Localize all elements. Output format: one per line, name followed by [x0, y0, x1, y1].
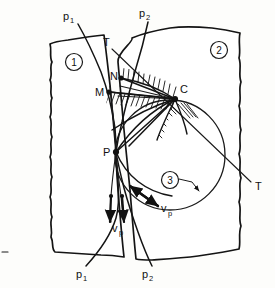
label-point-N: N [110, 70, 118, 82]
label-vp-right-sub: p [168, 209, 172, 218]
region-3-label: 3 [167, 175, 173, 186]
crack-propagation-figure: 1 2 3 N M C P p 1 p 2 p 1 p 2 T T v p v … [0, 0, 275, 288]
label-p1-bottom-base: p [76, 268, 82, 280]
label-point-C: C [180, 83, 188, 95]
label-point-P: P [103, 146, 110, 158]
region-2-label: 2 [216, 45, 222, 56]
block-2-outline [118, 27, 241, 260]
label-p2-top-base: p [139, 7, 145, 19]
label-p2-top: p 2 [139, 7, 150, 22]
label-vp-lower-sub: p [119, 228, 123, 237]
label-p1-bottom: p 1 [76, 268, 87, 283]
label-p2-bottom-sub: 2 [149, 274, 153, 283]
label-T-top: T [103, 36, 110, 48]
label-p2-bottom: p 2 [142, 268, 153, 283]
marker-point-C [172, 96, 178, 102]
label-p1-top-sub: 1 [70, 16, 74, 25]
diagram-canvas: 1 2 3 N M C P p 1 p 2 p 1 p 2 T T v p v … [0, 0, 275, 288]
marker-point-M [106, 89, 111, 94]
region-1-label: 1 [71, 57, 77, 68]
label-vp-right-base: v [161, 202, 167, 214]
marker-point-N [118, 75, 123, 80]
label-p2-top-sub: 2 [146, 13, 150, 22]
label-vp-lower-base: v [112, 222, 118, 234]
label-point-M: M [95, 86, 104, 98]
label-p2-bottom-base: p [142, 268, 148, 280]
label-T-bottom: T [255, 180, 262, 192]
label-p1-top: p 1 [63, 10, 74, 25]
label-p1-bottom-sub: 1 [83, 274, 87, 283]
marker-point-P [113, 149, 119, 155]
label-p1-top-base: p [63, 10, 69, 22]
